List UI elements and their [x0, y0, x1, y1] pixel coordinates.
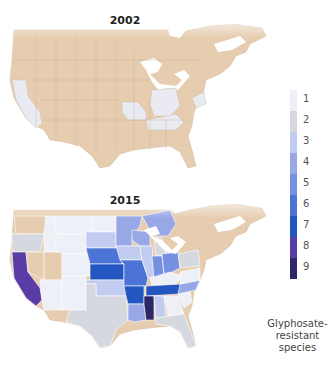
legend-item: 5 [286, 174, 333, 195]
region-washington [14, 216, 46, 234]
legend-item: 1 [286, 90, 333, 111]
legend-swatch [290, 153, 297, 174]
region-idaho [44, 216, 56, 252]
legend-label: 6 [303, 198, 309, 209]
region-wyoming [56, 234, 86, 254]
legend-swatch [290, 258, 297, 279]
legend-label: 3 [303, 135, 309, 146]
legend-label: 5 [303, 177, 309, 188]
region-kansas [90, 264, 124, 280]
region-new-mexico [62, 276, 86, 310]
legend-item: 6 [286, 195, 333, 216]
region-florida [156, 314, 196, 348]
legend-item: 7 [286, 216, 333, 237]
region-montana [54, 216, 92, 234]
legend-label: 7 [303, 219, 309, 230]
region-tennessee [146, 284, 182, 296]
region-alabama [154, 296, 166, 318]
legend-swatch [290, 111, 297, 132]
legend-item: 3 [286, 132, 333, 153]
legend-swatch [290, 174, 297, 195]
region-louisiana [128, 304, 146, 322]
legend-swatch [290, 132, 297, 153]
legend-item: 2 [286, 111, 333, 132]
region-iowa [116, 246, 142, 260]
legend-caption-line: Glyphosate- [262, 318, 333, 330]
map-2002: 2002 [0, 0, 280, 180]
legend-caption-line: species [262, 342, 333, 354]
map-title-2002: 2002 [0, 14, 250, 27]
legend-item: 9 [286, 258, 333, 279]
legend-swatch [290, 216, 297, 237]
legend: 1 2 3 4 5 6 7 8 9 [286, 90, 333, 279]
region-arizona [40, 280, 62, 310]
map-title-2015: 2015 [0, 194, 250, 207]
map-2015: 2015 [0, 180, 280, 366]
legend-item: 8 [286, 237, 333, 258]
region-utah [44, 252, 62, 280]
legend-label: 4 [303, 156, 309, 167]
legend-label: 2 [303, 114, 309, 125]
legend-label: 8 [303, 240, 309, 251]
legend-swatch [290, 237, 297, 258]
legend-item: 4 [286, 153, 333, 174]
legend-swatch [290, 90, 297, 111]
region-nebraska [86, 248, 122, 264]
region-north-dakota [92, 216, 116, 232]
region-oregon [12, 234, 44, 252]
legend-label: 1 [303, 93, 309, 104]
legend-caption: Glyphosate- resistant species [262, 318, 333, 354]
legend-caption-line: resistant [262, 330, 333, 342]
region-south-dakota [86, 232, 116, 248]
legend-label: 9 [303, 261, 309, 272]
region-colorado [62, 254, 90, 276]
legend-swatch [290, 195, 297, 216]
region-mississippi [144, 296, 154, 320]
